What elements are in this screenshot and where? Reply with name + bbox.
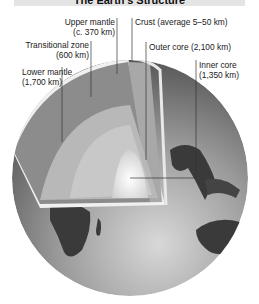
globe: [12, 58, 248, 296]
label-inner-core: Inner core (1,350 km): [199, 61, 239, 80]
label-upper-mantle: Upper mantle (c. 370 km): [65, 18, 115, 37]
label-outer-core: Outer core (2,100 km): [149, 43, 231, 53]
label-transitional-zone: Transitional zone (600 km): [26, 41, 89, 60]
label-crust: Crust (average 5–50 km): [135, 18, 228, 28]
label-lower-mantle: Lower mantle (1,700 km): [22, 68, 72, 87]
